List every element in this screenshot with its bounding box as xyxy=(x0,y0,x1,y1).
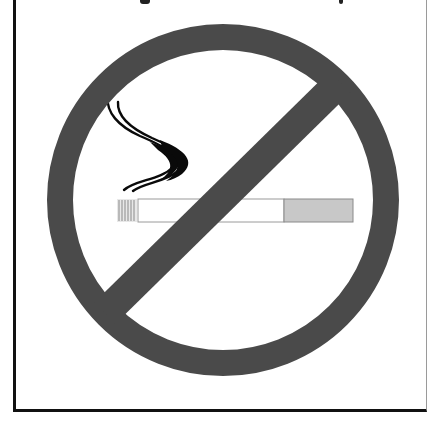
no-smoking-sign xyxy=(0,0,432,425)
smoke-icon xyxy=(108,97,189,191)
prohibition-slash xyxy=(105,82,340,313)
cigarette-filter xyxy=(284,199,353,222)
cigarette-ash xyxy=(117,199,137,222)
